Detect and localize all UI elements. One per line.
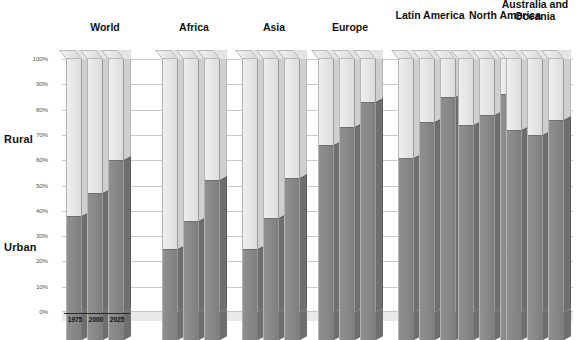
bar-foot-front xyxy=(242,312,258,340)
y-axis-tick-90: 90% xyxy=(14,80,48,87)
bar-foot-front xyxy=(479,312,495,340)
bar-front-face xyxy=(263,59,279,312)
bar-side-rural xyxy=(220,55,227,180)
bar-latin-america-2025 xyxy=(440,59,456,312)
y-axis-tick-20: 20% xyxy=(14,257,48,264)
y-axis-tick-0: 0% xyxy=(14,308,48,315)
bar-group-world xyxy=(66,0,131,340)
x-axis-label-2025: 2025 xyxy=(106,316,128,323)
bar-foot-side xyxy=(220,308,227,340)
bar-segment-rural xyxy=(88,59,102,193)
bar-segment-urban xyxy=(285,178,299,312)
bar-segment-rural xyxy=(163,59,177,249)
bar-segment-rural xyxy=(441,59,455,97)
bar-segment-urban xyxy=(549,120,563,312)
bar-world-2025 xyxy=(108,59,124,312)
bar-segment-rural xyxy=(507,59,521,130)
bar-front-face xyxy=(440,59,456,312)
bar-segment-rural xyxy=(109,59,123,160)
bar-front-face xyxy=(318,59,334,312)
bar-side-face xyxy=(376,55,383,312)
bar-foot xyxy=(419,312,442,340)
bar-segment-urban xyxy=(480,115,494,312)
bar-segment-rural xyxy=(399,59,413,158)
bar-segment-urban xyxy=(243,249,257,312)
bar-asia-2000 xyxy=(263,59,279,312)
bar-africa-2025 xyxy=(204,59,220,312)
bar-side-face xyxy=(124,55,131,312)
urbanization-stacked-bar-chart: Rural Urban 0%10%20%30%40%50%60%70%80%90… xyxy=(0,0,577,340)
bar-front-face xyxy=(204,59,220,312)
bar-foot xyxy=(360,312,383,340)
y-axis-tick-60: 60% xyxy=(14,156,48,163)
bar-europe-2000 xyxy=(339,59,355,312)
bar-foot xyxy=(263,312,286,340)
bar-foot-side xyxy=(376,308,383,340)
bar-segment-urban xyxy=(319,145,333,312)
bar-foot xyxy=(204,312,227,340)
bar-front-face xyxy=(108,59,124,312)
bar-australia-and-oceania-2025 xyxy=(548,59,564,312)
bar-foot xyxy=(527,312,550,340)
bar-foot-front xyxy=(204,312,220,340)
bar-europe-2025 xyxy=(360,59,376,312)
bar-segment-urban xyxy=(361,102,375,312)
bar-foot-front xyxy=(398,312,414,340)
bar-foot xyxy=(162,312,185,340)
bar-top-cap xyxy=(548,50,571,59)
y-axis-tick-40: 40% xyxy=(14,207,48,214)
bar-segment-rural xyxy=(340,59,354,127)
bar-foot xyxy=(318,312,341,340)
bar-front-face xyxy=(339,59,355,312)
bar-side-face xyxy=(564,55,571,312)
bar-africa-2000 xyxy=(183,59,199,312)
x-axis-rule xyxy=(64,313,130,314)
bar-segment-rural xyxy=(361,59,375,102)
bar-segment-urban xyxy=(507,130,521,312)
bar-foot-front xyxy=(419,312,435,340)
bar-side-face xyxy=(300,55,307,312)
bar-foot xyxy=(398,312,421,340)
bar-australia-and-oceania-1975 xyxy=(506,59,522,312)
bar-africa-1975 xyxy=(162,59,178,312)
y-axis-tick-70: 70% xyxy=(14,131,48,138)
bar-segment-rural xyxy=(264,59,278,218)
bar-top-cap xyxy=(108,50,131,59)
bar-foot-front xyxy=(318,312,334,340)
bar-asia-2025 xyxy=(284,59,300,312)
bar-segment-rural xyxy=(420,59,434,122)
bar-foot-front xyxy=(458,312,474,340)
bar-world-1975 xyxy=(66,59,82,312)
bar-front-face xyxy=(548,59,564,312)
bar-foot-front xyxy=(183,312,199,340)
bar-side-urban xyxy=(220,177,227,312)
bar-segment-urban xyxy=(420,122,434,312)
bar-foot-side xyxy=(564,308,571,340)
bar-front-face xyxy=(284,59,300,312)
bar-segment-rural xyxy=(480,59,494,115)
bar-foot xyxy=(548,312,571,340)
bar-segment-urban xyxy=(459,125,473,312)
bar-foot xyxy=(506,312,529,340)
bar-foot xyxy=(242,312,265,340)
bar-foot-front xyxy=(162,312,178,340)
bar-foot-front xyxy=(360,312,376,340)
y-axis-tick-80: 80% xyxy=(14,106,48,113)
bar-latin-america-1975 xyxy=(398,59,414,312)
bar-segment-urban xyxy=(88,193,102,312)
bar-segment-rural xyxy=(459,59,473,125)
bar-side-rural xyxy=(300,55,307,178)
bar-top-cap xyxy=(204,50,227,59)
bar-australia-and-oceania-2000 xyxy=(527,59,543,312)
bar-segment-urban xyxy=(109,160,123,312)
bar-foot-front xyxy=(440,312,456,340)
bar-front-face xyxy=(419,59,435,312)
bar-segment-rural xyxy=(528,59,542,135)
bar-segment-rural xyxy=(285,59,299,178)
bar-latin-america-2000 xyxy=(419,59,435,312)
bar-segment-urban xyxy=(205,180,219,312)
bar-side-urban xyxy=(300,174,307,312)
bar-front-face xyxy=(527,59,543,312)
bar-foot-side xyxy=(300,308,307,340)
bar-segment-rural xyxy=(205,59,219,180)
